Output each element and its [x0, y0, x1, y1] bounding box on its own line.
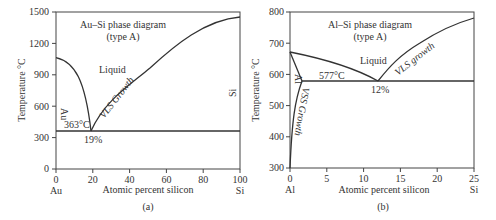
y-axis-label-a: Temperature °C	[16, 58, 27, 122]
svg-text:300: 300	[269, 162, 284, 173]
svg-text:600: 600	[34, 101, 49, 112]
svg-text:500: 500	[269, 100, 284, 111]
x-end-left-a: Au	[50, 185, 62, 196]
svg-text:15: 15	[395, 173, 405, 184]
label-vss-growth-b: VSS Growth	[293, 87, 312, 137]
x-end-left-b: Al	[285, 184, 295, 195]
chart-subtitle-a: (type A)	[106, 31, 139, 43]
chart-title-a: Au–Si phase diagram	[80, 19, 166, 30]
x-end-right-b: Si	[470, 184, 479, 195]
panel-label-a: (a)	[142, 201, 153, 213]
label-liquid-a: Liquid	[99, 64, 126, 75]
svg-text:10: 10	[359, 173, 369, 184]
svg-text:400: 400	[269, 131, 284, 142]
svg-text:300: 300	[34, 132, 49, 143]
svg-text:1200: 1200	[29, 38, 49, 49]
chart-b: 300 400 500 600 700 800 0 5 10 15 20 25 …	[250, 6, 479, 213]
svg-text:0: 0	[288, 173, 293, 184]
chart-subtitle-b: (type A)	[353, 31, 386, 43]
chart-a: 0 300 600 900 1200 1500 0 20 40 60 80 10…	[16, 6, 248, 213]
svg-text:80: 80	[198, 174, 208, 185]
label-liquid-b: Liquid	[360, 55, 387, 66]
y-tick-labels-a: 0 300 600 900 1200 1500	[29, 6, 49, 174]
svg-text:0: 0	[44, 163, 49, 174]
label-si-a: Si	[227, 88, 238, 97]
label-vls-growth-a: VLS Growth	[97, 75, 136, 121]
label-eutectic-comp-a: 19%	[84, 134, 102, 145]
svg-text:5: 5	[324, 173, 329, 184]
svg-text:20: 20	[88, 174, 98, 185]
x-tick-labels-b: 0 5 10 15 20 25	[288, 173, 480, 184]
svg-text:600: 600	[269, 69, 284, 80]
svg-text:25: 25	[469, 173, 479, 184]
y-tick-labels-b: 300 400 500 600 700 800	[269, 6, 284, 173]
x-axis-label-a: Atomic percent silicon	[102, 184, 193, 195]
label-eutectic-comp-b: 12%	[371, 84, 389, 95]
svg-text:700: 700	[269, 38, 284, 49]
chart-title-b: Al–Si phase diagram	[328, 19, 412, 30]
panel-label-b: (b)	[377, 201, 389, 213]
svg-text:20: 20	[432, 173, 442, 184]
svg-text:0: 0	[54, 174, 59, 185]
label-eutectic-temp-b: 577°C	[319, 70, 345, 81]
label-eutectic-temp-a: 363°C	[64, 119, 90, 130]
x-end-right-a: Si	[236, 185, 245, 196]
svg-text:800: 800	[269, 6, 284, 17]
svg-text:900: 900	[34, 69, 49, 80]
phase-diagrams: 0 300 600 900 1200 1500 0 20 40 60 80 10…	[0, 0, 496, 220]
svg-text:100: 100	[233, 174, 248, 185]
x-axis-label-b: Atomic percent silicon	[338, 184, 429, 195]
svg-text:1500: 1500	[29, 6, 49, 17]
y-axis-label-b: Temperature °C	[250, 58, 261, 122]
label-al-b: Al	[293, 74, 304, 84]
phase-lines-a	[56, 17, 240, 131]
